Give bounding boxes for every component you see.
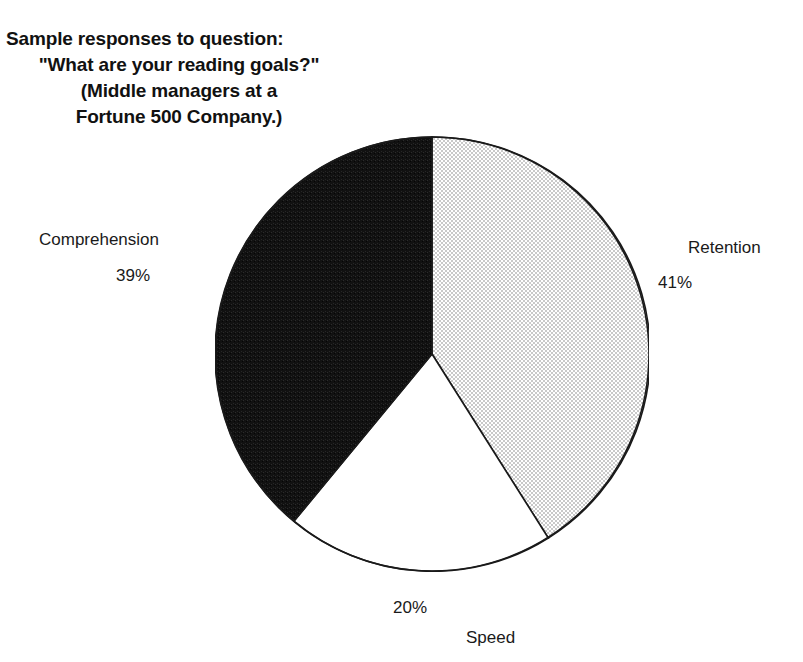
slice-label-retention: Retention <box>688 238 761 258</box>
pie-chart-figure: Sample responses to question: "What are … <box>0 0 803 662</box>
pie-svg <box>215 136 649 572</box>
chart-title: Sample responses to question: "What are … <box>4 26 354 130</box>
pie-graphic <box>215 136 649 572</box>
chart-title-line-3: (Middle managers at a <box>4 78 354 104</box>
slice-label-comprehension: Comprehension <box>39 230 159 250</box>
slice-value-retention: 41% <box>658 273 692 293</box>
chart-title-line-2: "What are your reading goals?" <box>4 52 354 78</box>
chart-title-line-1: Sample responses to question: <box>6 26 354 52</box>
slice-value-speed: 20% <box>393 598 427 618</box>
slice-value-comprehension: 39% <box>116 266 150 286</box>
slice-label-speed: Speed <box>466 628 515 648</box>
chart-title-line-4: Fortune 500 Company.) <box>4 104 354 130</box>
